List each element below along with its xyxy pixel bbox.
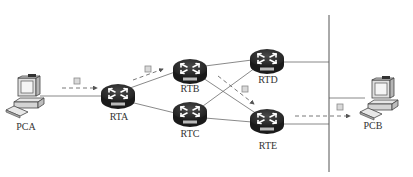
link-rtb-rte <box>203 78 257 114</box>
router-icon <box>250 49 284 74</box>
link-rta-rtb <box>130 72 175 88</box>
router-rtb[interactable] <box>173 59 207 84</box>
pc-pca[interactable] <box>6 74 44 118</box>
router-rtc[interactable] <box>173 102 207 127</box>
computer-icon <box>360 76 398 120</box>
label-rtc: RTC <box>181 128 200 139</box>
router-icon <box>173 102 207 127</box>
label-rtd: RTD <box>258 74 277 85</box>
packet-icon <box>242 86 248 92</box>
router-rta[interactable] <box>101 84 135 109</box>
packet-icon <box>145 66 151 72</box>
packet-icon <box>74 78 80 84</box>
label-rte: RTE <box>259 140 277 151</box>
network-diagram <box>0 0 413 177</box>
link-rtb-rtd <box>205 60 252 66</box>
packet-icon <box>337 104 343 110</box>
label-pcb: PCB <box>364 120 383 131</box>
link-rtc-rte <box>205 118 252 122</box>
label-rtb: RTB <box>181 83 200 94</box>
pc-pcb[interactable] <box>360 76 398 120</box>
router-rtd[interactable] <box>250 49 284 74</box>
links <box>40 15 365 172</box>
router-icon <box>250 109 284 134</box>
router-icon <box>101 84 135 109</box>
computer-icon <box>6 74 44 118</box>
link-rta-rtc <box>130 102 175 113</box>
label-rta: RTA <box>110 111 129 122</box>
label-pca: PCA <box>16 121 35 132</box>
router-icon <box>173 59 207 84</box>
router-rte[interactable] <box>250 109 284 134</box>
